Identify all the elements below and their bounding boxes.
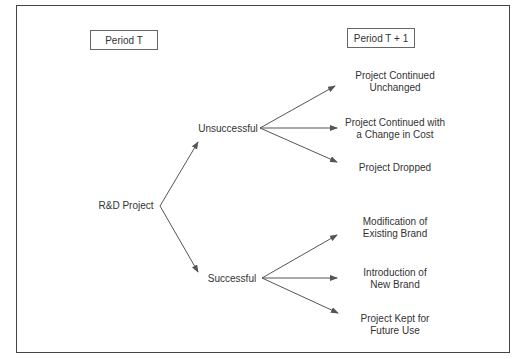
outcome-introduction-new-brand: Introduction of New Brand — [340, 267, 450, 291]
outcome-project-kept-future-use: Project Kept for Future Use — [340, 313, 450, 337]
arrow-root-to-successful — [160, 206, 198, 272]
outcome-project-continued-unchanged: Project Continued Unchanged — [340, 70, 450, 94]
arrow-unsuccessful-1 — [260, 86, 335, 128]
arrow-successful-1 — [262, 235, 337, 278]
arrow-root-to-unsuccessful — [160, 142, 198, 206]
branch-successful: Successful — [203, 273, 261, 285]
outcome-modification-existing-brand: Modification of Existing Brand — [340, 216, 450, 240]
outcome-project-continued-change-cost: Project Continued with a Change in Cost — [340, 117, 450, 141]
root-node: R&D Project — [95, 200, 157, 212]
tree-arrows — [0, 0, 530, 359]
outcome-project-dropped: Project Dropped — [340, 162, 450, 174]
branch-unsuccessful: Unsuccessful — [196, 123, 260, 135]
arrow-successful-3 — [262, 278, 338, 313]
arrow-unsuccessful-3 — [260, 128, 337, 162]
